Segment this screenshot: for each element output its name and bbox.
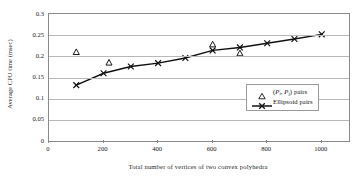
x-tick-mark: [212, 140, 213, 143]
x-tick-label: 800: [251, 145, 281, 152]
triangle-marker-icon: [251, 87, 273, 97]
legend-entry-pi-pj-pairs: (Pi, Pj) pairs: [251, 87, 313, 97]
legend-label-pi-pj-pairs: (Pi, Pj) pairs: [273, 88, 307, 97]
x-tick-mark: [321, 140, 322, 143]
legend-entry-ellipsoid-pairs: Ellipsoid pairs: [251, 97, 313, 107]
x-tick-mark: [48, 140, 49, 143]
line-x-marker-icon: [251, 97, 273, 107]
x-tick-label: 1000: [306, 145, 336, 152]
legend-label-ellipsoid-pairs: Ellipsoid pairs: [273, 98, 313, 106]
x-tick-label: 400: [142, 145, 172, 152]
chart-legend: (Pi, Pj) pairs Ellipsoid pairs: [246, 84, 319, 111]
x-axis-title: Total number of vertices of two convex p…: [48, 163, 348, 170]
x-tick-mark: [266, 140, 267, 143]
x-tick-mark: [103, 140, 104, 143]
x-tick-label: 600: [197, 145, 227, 152]
x-tick-label: 0: [33, 145, 63, 152]
x-tick-mark: [157, 140, 158, 143]
chart-figure: Average CPU time (msec) 00.050.10.150.20…: [0, 0, 364, 180]
x-tick-label: 200: [88, 145, 118, 152]
